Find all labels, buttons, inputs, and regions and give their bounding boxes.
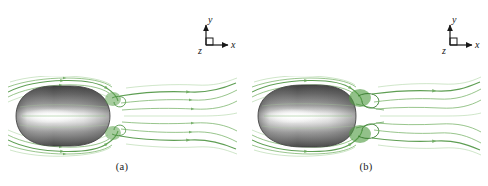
caption-a: (a) <box>0 161 244 172</box>
body-a <box>16 86 110 146</box>
axis-z-label: z <box>441 45 446 56</box>
separation-blob-lower-a <box>105 126 121 140</box>
axis-z-label: z <box>197 45 202 56</box>
axis-triad-a: y x z <box>186 12 246 58</box>
separation-blob-upper-a <box>105 92 121 106</box>
wake-streamlines-a <box>120 78 237 154</box>
panel-b: y x z <box>244 0 488 186</box>
axis-x-label: x <box>230 39 236 50</box>
flow-visualization-a: .sl-a{fill:none;stroke:#6fae5f;stroke-wi… <box>8 76 238 158</box>
separation-blob-lower-b <box>349 125 371 143</box>
axis-z-square-icon <box>450 38 457 45</box>
axis-y-label: y <box>451 14 457 25</box>
caption-b: (b) <box>244 161 488 172</box>
flow-visualization-b: .sl-b{fill:none;stroke:#6fae5f;stroke-wi… <box>252 76 482 158</box>
axis-triad-b: y x z <box>430 12 488 58</box>
panel-a: y x z <box>0 0 244 186</box>
separation-blob-upper-b <box>349 89 371 107</box>
figure-root: y x z <box>0 0 488 186</box>
body-b <box>258 85 356 147</box>
wake-streamlines-b <box>372 77 481 155</box>
axis-y-label: y <box>207 14 213 25</box>
axis-z-square-icon <box>206 38 213 45</box>
axis-x-label: x <box>474 39 480 50</box>
